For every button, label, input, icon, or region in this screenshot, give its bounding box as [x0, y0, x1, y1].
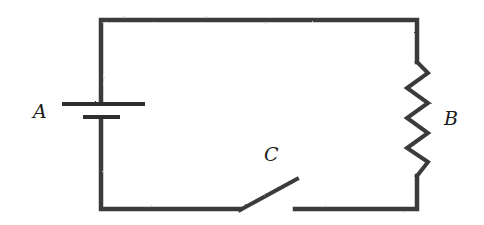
battery-symbol — [62, 104, 145, 117]
resistor-label: B — [444, 109, 458, 128]
resistor-symbol — [407, 62, 428, 176]
switch-label: C — [264, 145, 279, 164]
circuit-diagram — [0, 0, 484, 225]
wire-bottom-left — [101, 119, 240, 209]
wire-bottom-right — [295, 176, 417, 209]
battery-label: A — [33, 102, 47, 121]
switch-blade — [240, 179, 297, 210]
wire-top — [101, 20, 417, 100]
